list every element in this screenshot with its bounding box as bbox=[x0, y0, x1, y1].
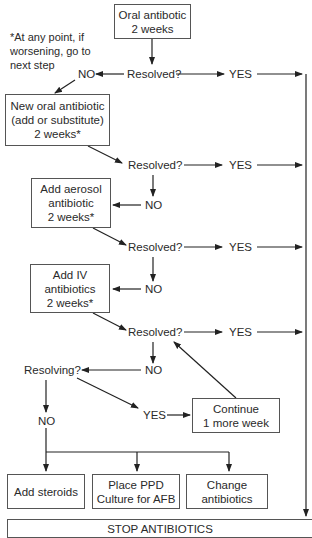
no-label-3: NO bbox=[145, 283, 162, 296]
yes-label-2: YES bbox=[229, 159, 252, 172]
ppd-culture-box: Place PPD Culture for AFB bbox=[92, 474, 180, 509]
change-antibiotics-box: Change antibiotics bbox=[186, 474, 268, 509]
yes-label-1: YES bbox=[229, 68, 252, 81]
resolving-label: Resolving? bbox=[24, 364, 81, 377]
iv-antibiotics-box: Add IV antibiotics 2 weeks* bbox=[30, 264, 110, 313]
box-line: antibiotics bbox=[201, 492, 252, 506]
add-steroids-box: Add steroids bbox=[7, 474, 85, 509]
box-line: New oral antibiotic bbox=[11, 99, 105, 113]
box-line: Oral antibotic bbox=[119, 8, 187, 22]
aerosol-antibiotic-box: Add aerosol antibiotic 2 weeks* bbox=[31, 178, 111, 228]
continue-box: Continue 1 more week bbox=[192, 398, 280, 433]
no-label-1: NO bbox=[78, 68, 95, 81]
resolved-label-4: Resolved? bbox=[128, 326, 182, 339]
box-line: Add steroids bbox=[14, 485, 78, 499]
yes-label-4: YES bbox=[229, 326, 252, 339]
box-line: 2 weeks* bbox=[48, 210, 95, 224]
stop-antibiotics-box: STOP ANTIBIOTICS bbox=[7, 519, 312, 538]
box-line: 2 weeks bbox=[131, 22, 173, 36]
box-line: Change bbox=[207, 478, 247, 492]
box-line: Culture for AFB bbox=[97, 492, 176, 506]
oral-antibiotic-box: Oral antibotic 2 weeks bbox=[114, 4, 191, 39]
box-line: 2 weeks* bbox=[47, 296, 94, 310]
box-line: antibiotics bbox=[44, 282, 95, 296]
resolved-label-3: Resolved? bbox=[128, 241, 182, 254]
yes-label-5: YES bbox=[143, 409, 166, 422]
no-label-2: NO bbox=[145, 199, 162, 212]
resolved-label-1: Resolved? bbox=[127, 68, 181, 81]
resolved-label-2: Resolved? bbox=[128, 159, 182, 172]
box-line: STOP ANTIBIOTICS bbox=[107, 522, 213, 536]
box-line: Continue bbox=[213, 402, 259, 416]
note-line: *At any point, if bbox=[10, 30, 91, 44]
box-line: 1 more week bbox=[203, 416, 269, 430]
no-label-5: NO bbox=[38, 415, 55, 428]
worsening-note: *At any point, if worsening, go to next … bbox=[10, 30, 91, 72]
box-line: Add IV bbox=[53, 268, 88, 282]
note-line: worsening, go to bbox=[10, 44, 91, 58]
box-line: 2 weeks* bbox=[34, 127, 81, 141]
box-line: (add or substitute) bbox=[11, 113, 104, 127]
box-line: Add aerosol bbox=[40, 182, 101, 196]
new-oral-antibiotic-box: New oral antibiotic (add or substitute) … bbox=[5, 94, 110, 146]
no-label-4: NO bbox=[145, 364, 162, 377]
box-line: antibiotic bbox=[48, 196, 93, 210]
yes-label-3: YES bbox=[229, 241, 252, 254]
box-line: Place PPD bbox=[108, 478, 164, 492]
